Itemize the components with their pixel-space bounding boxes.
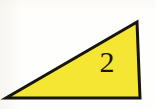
triangle-side-label: 2 (94, 47, 120, 77)
figure-canvas: 2 (0, 0, 155, 109)
triangle-svg (0, 0, 155, 109)
